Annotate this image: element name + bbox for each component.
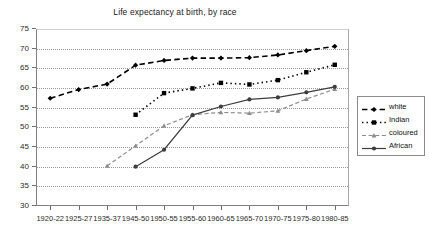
x-tick-label: 1950-55 bbox=[150, 214, 178, 223]
gridline bbox=[37, 68, 348, 69]
x-tick-mark bbox=[278, 206, 279, 210]
gridline bbox=[37, 88, 348, 89]
x-tick-mark bbox=[50, 206, 51, 210]
legend-item-white[interactable]: white bbox=[361, 100, 422, 113]
x-tick-label: 1925-27 bbox=[65, 214, 93, 223]
y-tick-label: 35 bbox=[20, 181, 29, 190]
legend-swatch-diamond-icon bbox=[361, 101, 387, 112]
y-tick-mark bbox=[32, 87, 36, 88]
legend-swatch-triangle-icon bbox=[361, 127, 387, 138]
legend-swatch-square-icon bbox=[361, 114, 387, 125]
x-tick-label: 1935-37 bbox=[93, 214, 121, 223]
chart-legend: whiteIndiancolouredAfrican bbox=[357, 96, 425, 156]
x-tick-label: 1920-22 bbox=[36, 214, 64, 223]
y-tick-mark bbox=[32, 205, 36, 206]
data-point-square bbox=[372, 120, 376, 124]
legend-label: coloured bbox=[389, 127, 418, 138]
y-tick-mark bbox=[32, 107, 36, 108]
legend-label: Indian bbox=[389, 114, 409, 125]
gridline bbox=[37, 108, 348, 109]
gridline bbox=[37, 49, 348, 50]
x-tick-mark bbox=[136, 206, 137, 210]
legend-item-coloured[interactable]: coloured bbox=[361, 126, 422, 139]
legend-swatch-circle-icon bbox=[361, 140, 387, 151]
y-tick-label: 50 bbox=[20, 122, 29, 131]
y-tick-label: 40 bbox=[20, 162, 29, 171]
grid-lines bbox=[37, 30, 348, 205]
y-tick-label: 70 bbox=[20, 44, 29, 53]
x-tick-label: 1975-80 bbox=[293, 214, 321, 223]
y-tick-label: 60 bbox=[20, 83, 29, 92]
x-tick-label: 1945-50 bbox=[122, 214, 150, 223]
y-tick-label: 55 bbox=[20, 103, 29, 112]
y-tick-label: 30 bbox=[20, 201, 29, 210]
y-tick-mark bbox=[32, 185, 36, 186]
x-tick-mark bbox=[249, 206, 250, 210]
gridline bbox=[37, 186, 348, 187]
x-tick-label: 1965-70 bbox=[236, 214, 264, 223]
plot-area bbox=[36, 29, 349, 206]
x-tick-label: 1955-60 bbox=[179, 214, 207, 223]
y-tick-label: 75 bbox=[20, 24, 29, 33]
x-tick-mark bbox=[79, 206, 80, 210]
y-tick-label: 45 bbox=[20, 142, 29, 151]
gridline bbox=[37, 127, 348, 128]
y-tick-mark bbox=[32, 67, 36, 68]
x-tick-label: 1960-65 bbox=[207, 214, 235, 223]
gridline bbox=[37, 147, 348, 148]
y-tick-label: 65 bbox=[20, 63, 29, 72]
legend-label: white bbox=[389, 101, 407, 112]
y-tick-mark bbox=[32, 126, 36, 127]
x-tick-mark bbox=[164, 206, 165, 210]
x-tick-label: 1980-85 bbox=[321, 214, 349, 223]
y-tick-mark bbox=[32, 146, 36, 147]
chart-container: Life expectancy at birth, by race 303540… bbox=[0, 0, 429, 235]
data-point-diamond bbox=[371, 107, 376, 112]
data-point-circle bbox=[372, 146, 376, 150]
y-tick-mark bbox=[32, 48, 36, 49]
x-tick-mark bbox=[221, 206, 222, 210]
chart-title: Life expectancy at birth, by race bbox=[0, 7, 350, 17]
gridline bbox=[37, 29, 348, 30]
x-tick-mark bbox=[193, 206, 194, 210]
legend-item-indian[interactable]: Indian bbox=[361, 113, 422, 126]
x-tick-mark bbox=[107, 206, 108, 210]
legend-label: African bbox=[389, 140, 412, 151]
y-tick-mark bbox=[32, 166, 36, 167]
gridline bbox=[37, 167, 348, 168]
y-tick-mark bbox=[32, 28, 36, 29]
x-tick-mark bbox=[306, 206, 307, 210]
legend-item-african[interactable]: African bbox=[361, 139, 422, 152]
x-tick-mark bbox=[335, 206, 336, 210]
x-tick-label: 1970-75 bbox=[264, 214, 292, 223]
